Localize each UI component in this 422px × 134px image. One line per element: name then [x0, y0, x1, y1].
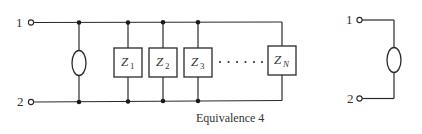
bottom-rail: [34, 101, 282, 103]
impedance-z3: Z 3: [184, 20, 212, 103]
terminal-2-label: 2: [17, 94, 24, 109]
zn-subscript: N: [282, 59, 290, 69]
impedance-zn: Z N: [268, 22, 296, 101]
impedance-z2: Z 2: [149, 20, 177, 103]
equivalence-diagram: 1 2 Z 1: [0, 0, 422, 134]
left-circuit: 1 2 Z 1: [16, 15, 296, 109]
source-branch: [72, 20, 86, 104]
z1-label: Z: [121, 54, 129, 69]
junction-dot: [77, 20, 82, 25]
right-circuit: 1 2: [346, 12, 401, 106]
right-terminal-1: [357, 17, 362, 22]
top-rail: [34, 22, 282, 23]
terminal-1-label: 1: [16, 15, 23, 30]
right-terminal-2: [357, 96, 362, 101]
impedance-z1: Z 1: [114, 20, 142, 104]
right-current-source-icon: [387, 48, 401, 73]
z3-label: Z: [191, 54, 199, 69]
current-source-icon: [72, 51, 86, 76]
zn-label: Z: [274, 52, 282, 67]
z3-subscript: 3: [200, 61, 205, 71]
terminal-1: [28, 20, 33, 25]
caption: Equivalence 4: [196, 111, 264, 125]
z1-subscript: 1: [130, 61, 135, 71]
ellipsis: [219, 61, 263, 63]
right-terminal-1-label: 1: [346, 12, 353, 27]
z2-subscript: 2: [165, 61, 170, 71]
junction-dot: [77, 100, 82, 105]
right-terminal-2-label: 2: [347, 91, 354, 106]
z2-label: Z: [156, 54, 164, 69]
terminal-2: [28, 99, 33, 104]
